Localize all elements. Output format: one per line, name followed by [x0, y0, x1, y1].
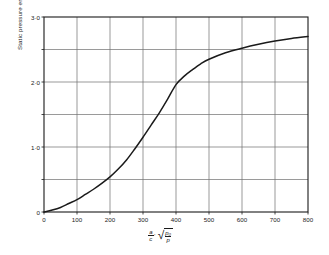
chart-figure: Static pressure errorΔPq ac′√p₀p 0100200…	[0, 0, 329, 255]
x-axis-title-denominator: c	[148, 236, 154, 242]
y-axis-title-text: Static pressure error	[16, 0, 23, 50]
radical-numerator: p₀	[165, 230, 171, 237]
x-tick-label: 400	[171, 216, 181, 223]
x-tick-label: 600	[237, 216, 247, 223]
x-tick-label: 300	[138, 216, 148, 223]
x-axis-title-radical: √p₀p	[158, 228, 173, 243]
y-tick-label: 2·0	[22, 79, 40, 86]
x-tick-label: 0	[42, 216, 45, 223]
x-tick-label: 800	[303, 216, 313, 223]
radical-content: p₀p	[164, 228, 172, 243]
x-axis-title-numerator: a	[148, 229, 154, 236]
x-axis-title-fraction: ac	[148, 229, 154, 243]
y-tick-label: 1·0	[22, 144, 40, 151]
x-axis-title-prime: ′	[154, 233, 155, 239]
radical-denominator: p	[165, 237, 171, 243]
radical-sign-icon: √	[158, 229, 165, 241]
x-axis-title: ac′√p₀p	[148, 228, 173, 243]
x-tick-label: 200	[105, 216, 115, 223]
x-tick-label: 500	[204, 216, 214, 223]
y-tick-label: 3·0	[22, 14, 40, 21]
y-tick-label: 0	[22, 209, 40, 216]
x-tick-label: 100	[72, 216, 82, 223]
x-tick-label: 700	[270, 216, 280, 223]
y-axis-title: Static pressure errorΔPq	[14, 0, 27, 50]
